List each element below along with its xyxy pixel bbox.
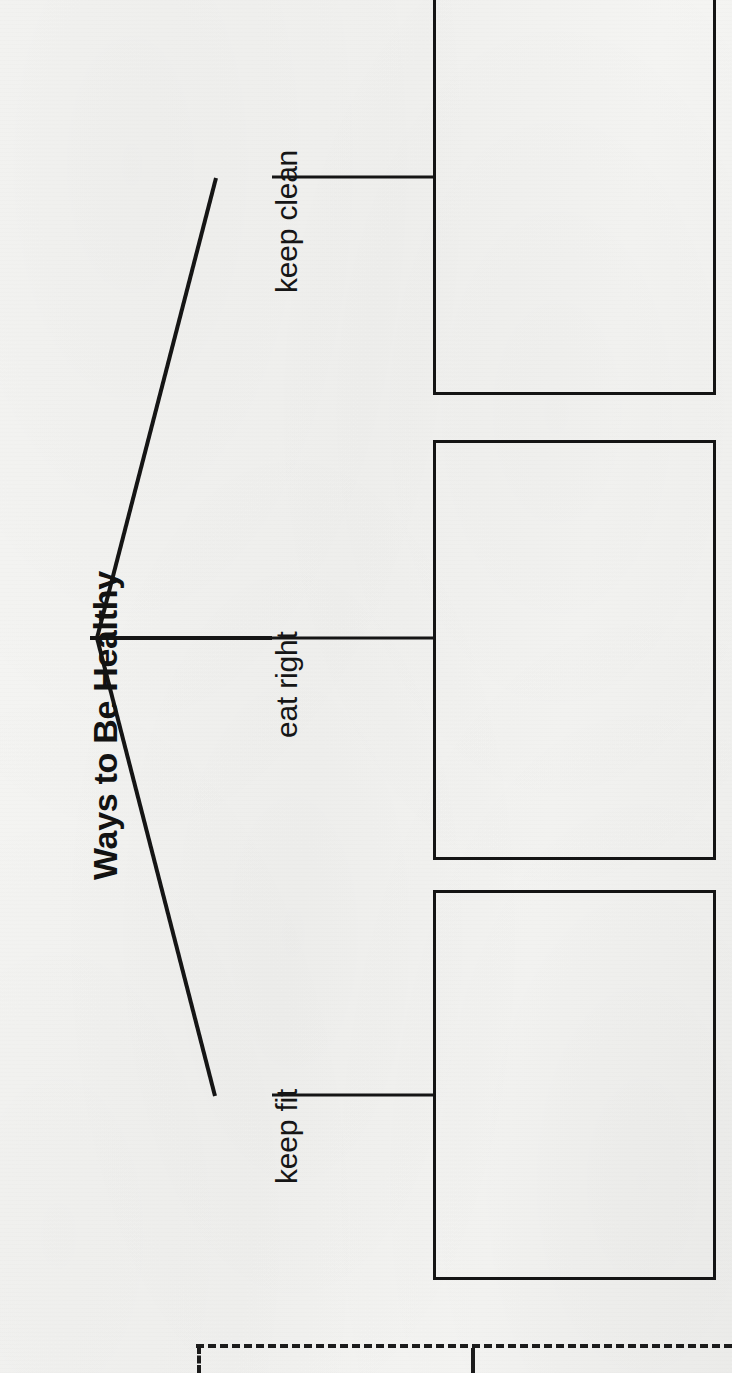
- response-box-keep-clean[interactable]: [433, 0, 716, 395]
- response-box-eat-right[interactable]: [433, 440, 716, 860]
- branch-label-eat-right: eat right: [272, 631, 302, 738]
- response-box-keep-fit[interactable]: [433, 890, 716, 1280]
- worksheet-page: Ways to Be Healthy keep clean eat right …: [0, 0, 732, 1373]
- branch-line-keep-clean: [97, 178, 216, 638]
- branch-label-keep-clean: keep clean: [272, 150, 302, 293]
- footer-divider-tick: [471, 1348, 475, 1373]
- footer-dashed-stub: [197, 1346, 201, 1373]
- page-title: Ways to Be Healthy: [88, 571, 122, 880]
- branch-label-keep-fit: keep fit: [272, 1089, 302, 1184]
- footer-dashed-rule: [196, 1344, 732, 1348]
